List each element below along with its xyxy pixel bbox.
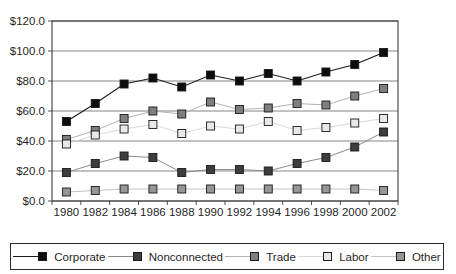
labor-marker (178, 130, 186, 138)
corporate-marker (322, 68, 330, 76)
nonconnected-marker (120, 152, 128, 160)
trade-legend-marker (250, 252, 259, 261)
other-marker (120, 185, 128, 193)
trade-marker (178, 110, 186, 118)
chart-svg: $0.0$20.0$40.0$60.0$80.0$100.0$120.01980… (0, 0, 456, 240)
other-line (66, 189, 383, 192)
labor-marker (351, 119, 359, 127)
trade-marker (351, 92, 359, 100)
chart-figure: $0.0$20.0$40.0$60.0$80.0$100.0$120.01980… (0, 0, 456, 274)
x-tick-label: 2000 (342, 206, 368, 218)
labor-legend-line (298, 256, 324, 257)
nonconnected-marker (178, 169, 186, 177)
y-tick-label: $100.0 (10, 45, 45, 57)
corporate-marker (62, 118, 70, 126)
labor-marker (149, 121, 157, 129)
trade-marker (235, 106, 243, 114)
labor-marker (264, 118, 272, 126)
other-marker (380, 187, 388, 195)
legend-item-labor: Labor (298, 251, 368, 263)
other-marker (178, 185, 186, 193)
y-tick-label: $20.0 (16, 165, 45, 177)
corporate-marker (351, 61, 359, 69)
nonconnected-marker (293, 160, 301, 168)
nonconnected-legend-marker (133, 252, 142, 261)
labor-marker (322, 124, 330, 132)
nonconnected-marker (149, 154, 157, 162)
labor-marker (293, 127, 301, 135)
labor-marker (91, 131, 99, 139)
labor-legend-marker (323, 252, 332, 261)
trade-marker (293, 100, 301, 108)
legend-label-labor: Labor (339, 251, 368, 263)
other-marker (91, 187, 99, 195)
nonconnected-marker (264, 167, 272, 175)
legend-label-other: Other (412, 251, 441, 263)
nonconnected-marker (235, 166, 243, 174)
other-marker (207, 185, 215, 193)
nonconnected-marker (380, 128, 388, 136)
labor-marker (62, 140, 70, 148)
trade-legend-line (225, 256, 251, 257)
corporate-marker (120, 80, 128, 88)
x-tick-label: 1988 (169, 206, 195, 218)
nonconnected-marker (322, 154, 330, 162)
trade-line (66, 89, 383, 140)
x-tick-label: 1996 (284, 206, 310, 218)
x-tick-label: 1982 (82, 206, 108, 218)
corporate-marker (235, 77, 243, 85)
other-marker (322, 185, 330, 193)
nonconnected-marker (351, 143, 359, 151)
x-tick-label: 1986 (140, 206, 166, 218)
corporate-marker (293, 77, 301, 85)
x-tick-label: 2002 (371, 206, 397, 218)
x-tick-label: 1984 (111, 206, 137, 218)
nonconnected-line (66, 132, 383, 173)
y-tick-label: $120.0 (10, 15, 45, 27)
legend-label-trade: Trade (266, 251, 296, 263)
labor-marker (207, 122, 215, 130)
x-tick-label: 1990 (198, 206, 224, 218)
labor-marker (380, 115, 388, 123)
legend-label-nonconnected: Nonconnected (149, 251, 223, 263)
corporate-legend-marker (38, 252, 47, 261)
trade-marker (120, 115, 128, 123)
y-tick-label: $0.0 (23, 195, 45, 207)
nonconnected-marker (91, 160, 99, 168)
corporate-marker (207, 71, 215, 79)
corporate-legend-line (13, 256, 39, 257)
labor-marker (120, 125, 128, 133)
corporate-marker (91, 100, 99, 108)
legend-item-nonconnected: Nonconnected (108, 251, 223, 263)
trade-marker (380, 85, 388, 93)
other-marker (351, 185, 359, 193)
other-marker (149, 185, 157, 193)
series-labor (62, 115, 387, 149)
x-tick-label: 1994 (255, 206, 281, 218)
nonconnected-marker (207, 166, 215, 174)
chart-legend: CorporateNonconnectedTradeLaborOther (10, 243, 444, 270)
trade-marker (207, 98, 215, 106)
y-tick-label: $80.0 (16, 75, 45, 87)
series-nonconnected (62, 128, 387, 177)
series-corporate (62, 49, 387, 126)
corporate-marker (380, 49, 388, 57)
x-tick-label: 1998 (313, 206, 339, 218)
other-marker (293, 185, 301, 193)
corporate-marker (149, 74, 157, 82)
trade-marker (149, 107, 157, 115)
y-tick-label: $60.0 (16, 105, 45, 117)
series-other (62, 185, 387, 196)
corporate-marker (264, 70, 272, 78)
x-tick-label: 1992 (227, 206, 253, 218)
other-legend-marker (396, 252, 405, 261)
y-tick-label: $40.0 (16, 135, 45, 147)
legend-item-corporate: Corporate (13, 251, 105, 263)
nonconnected-marker (62, 169, 70, 177)
other-legend-line (371, 256, 397, 257)
legend-item-trade: Trade (225, 251, 296, 263)
labor-marker (235, 125, 243, 133)
other-marker (235, 185, 243, 193)
nonconnected-legend-line (108, 256, 134, 257)
corporate-marker (178, 83, 186, 91)
